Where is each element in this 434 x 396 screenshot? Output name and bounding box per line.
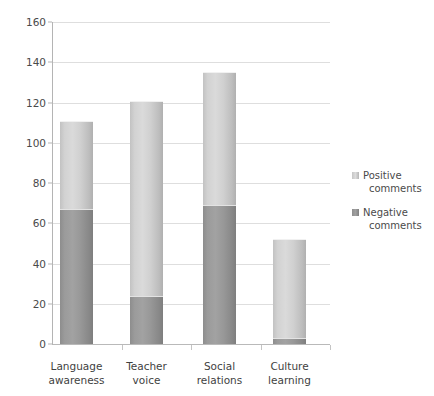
bar-segment-positive[interactable] bbox=[130, 101, 163, 296]
bar-segment-negative[interactable] bbox=[203, 205, 236, 344]
legend-label-line2: comments bbox=[369, 183, 432, 196]
y-axis-tick-label: 80 bbox=[6, 178, 46, 189]
category-label-line2: learning bbox=[244, 373, 336, 387]
bar-column[interactable] bbox=[130, 101, 163, 345]
bar-segment-negative[interactable] bbox=[130, 296, 163, 344]
y-axis-tick-label: 120 bbox=[6, 97, 46, 108]
category-label-line1: Social bbox=[204, 360, 235, 372]
y-axis-tick-label: 100 bbox=[6, 138, 46, 149]
legend-label: Positivecomments bbox=[363, 170, 432, 195]
legend-entry[interactable]: Positivecomments bbox=[352, 170, 432, 195]
bar-column[interactable] bbox=[60, 121, 93, 344]
y-axis-tick-label: 160 bbox=[6, 17, 46, 28]
bar-segment-negative[interactable] bbox=[60, 209, 93, 344]
stacked-bar-chart: 020406080100120140160 LanguageawarenessT… bbox=[0, 0, 434, 396]
bar-segment-negative[interactable] bbox=[273, 338, 306, 344]
bar-segment-positive[interactable] bbox=[203, 72, 236, 205]
bar-column[interactable] bbox=[203, 72, 236, 344]
x-axis-tick-mark bbox=[191, 345, 192, 350]
legend-label-line1: Positive bbox=[363, 170, 402, 181]
y-axis-tick-label: 20 bbox=[6, 299, 46, 310]
bar-segment-positive[interactable] bbox=[273, 239, 306, 338]
y-axis-tick-label: 140 bbox=[6, 57, 46, 68]
bar-column[interactable] bbox=[273, 239, 306, 344]
y-axis-tick-label: 60 bbox=[6, 218, 46, 229]
legend-label: Negativecomments bbox=[363, 207, 432, 232]
legend-label-line2: comments bbox=[369, 220, 432, 233]
x-axis-tick-mark bbox=[122, 345, 123, 350]
x-axis-category-label: Culturelearning bbox=[244, 359, 336, 387]
x-axis-tick-mark bbox=[330, 345, 331, 350]
chart-legend: PositivecommentsNegativecomments bbox=[352, 170, 432, 244]
legend-swatch-negative-icon bbox=[352, 209, 359, 216]
bar-segment-positive[interactable] bbox=[60, 121, 93, 210]
y-axis-tick-label: 40 bbox=[6, 258, 46, 269]
category-label-line1: Language bbox=[51, 360, 103, 372]
plot-area bbox=[52, 22, 330, 344]
category-label-line1: Culture bbox=[270, 360, 308, 372]
legend-swatch-positive-icon bbox=[352, 172, 359, 179]
y-axis-tick-label: 0 bbox=[6, 339, 46, 350]
category-label-line1: Teacher bbox=[126, 360, 167, 372]
x-axis-tick-mark bbox=[261, 345, 262, 350]
legend-label-line1: Negative bbox=[363, 207, 408, 218]
legend-entry[interactable]: Negativecomments bbox=[352, 207, 432, 232]
